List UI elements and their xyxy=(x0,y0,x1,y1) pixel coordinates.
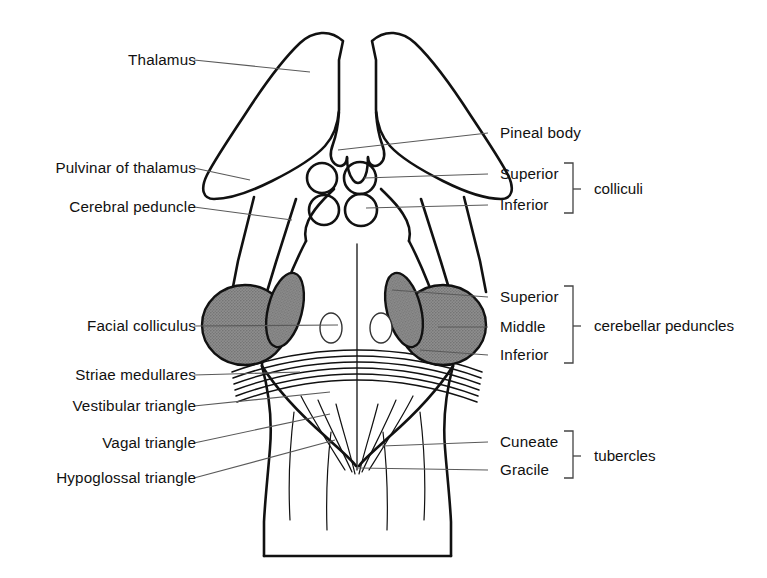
leader-hypoglossal-triangle xyxy=(194,440,335,478)
label-middle-cerebellar-peduncle: Middle xyxy=(500,319,546,334)
leader-vagal-triangle xyxy=(194,414,330,443)
bracket-tubercles xyxy=(564,431,573,478)
group-brackets xyxy=(564,163,581,478)
medulla-right-outline xyxy=(444,366,453,556)
group-label-cerebellar-peduncles: cerebellar peduncles xyxy=(594,318,734,333)
label-striae-medullares: Striae medullares xyxy=(0,367,196,382)
superior-colliculus-left-circle xyxy=(307,163,337,193)
label-thalamus: Thalamus xyxy=(0,52,196,67)
leader-tubercle-gracile xyxy=(358,468,488,470)
label-cerebral-peduncle: Cerebral peduncle xyxy=(0,199,196,214)
label-pulvinar-of-thalamus: Pulvinar of thalamus xyxy=(0,160,196,175)
leader-pulvinar xyxy=(194,168,250,180)
cerebral-peduncle-right xyxy=(464,197,486,292)
figure-canvas: Thalamus Pulvinar of thalamus Cerebral p… xyxy=(0,0,767,578)
group-label-tubercles: tubercles xyxy=(594,448,656,463)
leader-lines-left xyxy=(194,60,338,478)
label-hypoglossal-triangle: Hypoglossal triangle xyxy=(0,470,196,485)
facial-colliculus-right-oval xyxy=(370,313,392,343)
facial-colliculi xyxy=(320,313,392,343)
leader-colliculus-superior xyxy=(364,174,488,178)
bracket-cerebellar-peduncles xyxy=(564,286,573,363)
label-superior-colliculus: Superior xyxy=(500,166,559,181)
pineal-recess-right xyxy=(368,112,384,166)
pineal-recess-left xyxy=(331,112,347,166)
label-facial-colliculus: Facial colliculus xyxy=(0,318,196,333)
thalamus-right-outline xyxy=(372,33,512,199)
group-label-colliculi: colliculi xyxy=(594,181,643,196)
label-superior-cerebellar-peduncle: Superior xyxy=(500,289,559,304)
leader-colliculus-inferior xyxy=(366,205,488,208)
cerebral-peduncle-right-inner xyxy=(421,199,451,295)
label-vestibular-triangle: Vestibular triangle xyxy=(0,398,196,413)
tectum-plate-right xyxy=(381,189,410,241)
label-inferior-cerebellar-peduncle: Inferior xyxy=(500,347,548,362)
label-cuneate-tubercle: Cuneate xyxy=(500,434,558,449)
cerebral-peduncle-left xyxy=(232,197,254,292)
brainstem-diagram xyxy=(0,0,767,578)
inferior-colliculus-right-circle xyxy=(345,194,377,226)
leader-tubercle-cuneate xyxy=(382,442,488,446)
leader-thalamus xyxy=(194,60,310,72)
label-inferior-colliculus: Inferior xyxy=(500,197,548,212)
superior-cerebellar-peduncle-left xyxy=(259,269,310,351)
medulla-left-outline xyxy=(262,366,271,556)
facial-colliculus-left-oval xyxy=(320,313,342,343)
label-gracile-tubercle: Gracile xyxy=(500,462,549,477)
leader-cerebral-peduncle xyxy=(194,207,292,220)
leader-pineal-body xyxy=(338,133,488,150)
label-pineal-body: Pineal body xyxy=(500,125,581,140)
bracket-colliculi xyxy=(564,163,573,213)
label-vagal-triangle: Vagal triangle xyxy=(0,435,196,450)
